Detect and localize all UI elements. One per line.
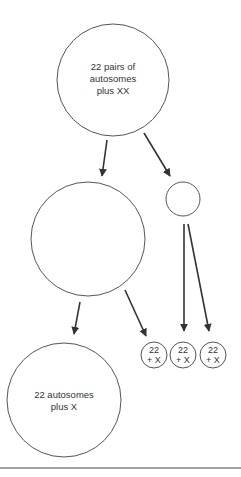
polar-body-c-line-2: + X [206,355,220,365]
polar-body-a-line-2: + X [147,355,161,365]
arrow-parent-to-polar-body [144,133,170,176]
polar-body-c-line-1: 22 [208,345,218,355]
ovum-label-line-2: plus X [51,401,78,412]
arrow-secondary-to-polar-a [125,290,146,336]
first-polar-body [166,182,200,216]
parent-label-line-1: 22 pairs of [91,61,136,72]
arrow-polar-to-c [188,224,209,331]
polar-body-a-line-1: 22 [149,345,159,355]
arrow-secondary-to-ovum [74,302,80,334]
secondary-cell [31,182,145,296]
polar-body-b: 22 + X [170,342,196,368]
polar-body-b-line-1: 22 [178,345,188,355]
parent-label-line-2: autosomes [90,73,137,84]
parent-label-line-3: plus XX [97,85,130,96]
ovum-label-line-1: 22 autosomes [34,389,94,400]
parent-cell: 22 pairs of autosomes plus XX [57,24,169,136]
polar-body-b-line-2: + X [176,355,190,365]
arrow-parent-to-secondary [102,140,107,176]
meiosis-diagram: 22 pairs of autosomes plus XX 22 + X 22 … [0,0,241,477]
ovum-cell: 22 autosomes plus X [7,343,121,457]
polar-body-c: 22 + X [200,342,226,368]
polar-body-a: 22 + X [141,342,167,368]
